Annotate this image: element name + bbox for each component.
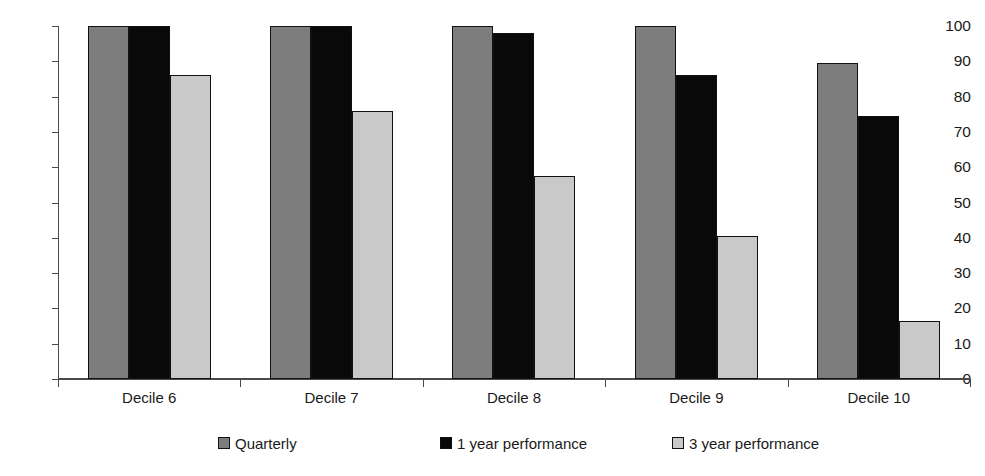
bar-group xyxy=(240,26,422,379)
x-axis-tick xyxy=(970,379,971,387)
bar-group xyxy=(423,26,605,379)
x-axis-category-label: Decile 7 xyxy=(240,390,422,405)
plot-area xyxy=(58,26,970,379)
x-axis-tick xyxy=(58,379,59,387)
three-year-swatch-icon xyxy=(672,437,684,449)
legend-item[interactable]: 1 year performance xyxy=(440,432,587,454)
legend-item[interactable]: 3 year performance xyxy=(672,432,819,454)
one-year-swatch-icon xyxy=(440,437,452,449)
bar[interactable] xyxy=(452,26,493,379)
bar[interactable] xyxy=(817,63,858,379)
chart-legend: Quarterly1 year performance3 year perfor… xyxy=(0,432,985,458)
x-axis-tick xyxy=(423,379,424,387)
x-axis-category-label: Decile 9 xyxy=(605,390,787,405)
bar[interactable] xyxy=(635,26,676,379)
x-axis-tick xyxy=(605,379,606,387)
legend-label: 3 year performance xyxy=(689,436,819,451)
bar[interactable] xyxy=(858,116,899,379)
legend-item[interactable]: Quarterly xyxy=(218,432,297,454)
legend-label: 1 year performance xyxy=(457,436,587,451)
y-axis xyxy=(0,0,60,476)
bar[interactable] xyxy=(352,111,393,379)
bar[interactable] xyxy=(129,26,170,379)
x-axis-tick xyxy=(788,379,789,387)
legend-label: Quarterly xyxy=(235,436,297,451)
bar[interactable] xyxy=(311,26,352,379)
x-axis-tick xyxy=(240,379,241,387)
bar[interactable] xyxy=(534,176,575,379)
bar[interactable] xyxy=(170,75,211,379)
x-axis-category-label: Decile 8 xyxy=(423,390,605,405)
bar[interactable] xyxy=(270,26,311,379)
bar[interactable] xyxy=(88,26,129,379)
bar-group xyxy=(788,26,970,379)
bar[interactable] xyxy=(717,236,758,379)
x-axis-category-label: Decile 6 xyxy=(58,390,240,405)
quarterly-swatch-icon xyxy=(218,437,230,449)
bar-group xyxy=(605,26,787,379)
bar[interactable] xyxy=(899,321,940,379)
bar-group xyxy=(58,26,240,379)
x-axis-category-label: Decile 10 xyxy=(788,390,970,405)
bar-chart: 1009080706050403020100 Decile 6Decile 7D… xyxy=(0,0,985,476)
bar[interactable] xyxy=(676,75,717,379)
bar[interactable] xyxy=(493,33,534,379)
